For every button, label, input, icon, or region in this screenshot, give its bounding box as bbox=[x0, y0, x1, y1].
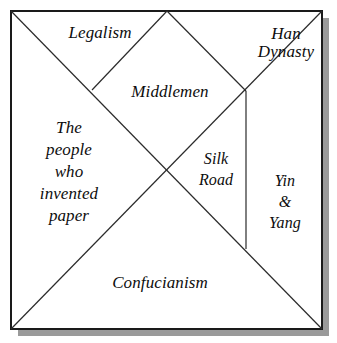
tangram-diagram: Legalism Han Dynasty Middlemen The peopl… bbox=[0, 0, 337, 343]
tangram-svg bbox=[0, 0, 337, 343]
